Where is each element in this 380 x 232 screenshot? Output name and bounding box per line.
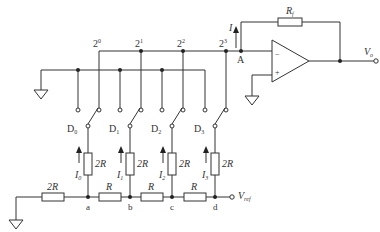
svg-text:2R: 2R xyxy=(222,158,233,169)
svg-text:R: R xyxy=(105,181,112,192)
svg-text:21: 21 xyxy=(135,38,143,49)
svg-text:−: − xyxy=(275,50,280,59)
svg-text:2R: 2R xyxy=(137,158,148,169)
svg-text:Vref: Vref xyxy=(238,190,252,202)
r2r-dac-diagram: I A 20 21 22 23 − + Rf Vo D0 xyxy=(0,0,380,232)
svg-text:a: a xyxy=(86,202,90,212)
switch-d0: D0 xyxy=(67,108,101,135)
vref-terminal xyxy=(230,195,234,199)
svg-text:R: R xyxy=(147,181,154,192)
svg-text:D3: D3 xyxy=(194,123,204,135)
ground-icon xyxy=(9,220,23,229)
opamp: − + Rf Vo xyxy=(241,5,378,105)
svg-text:+: + xyxy=(275,68,280,77)
switch-d1: D1 xyxy=(109,108,143,135)
node-A-label: A xyxy=(237,54,245,65)
svg-text:b: b xyxy=(128,202,133,212)
svg-text:20: 20 xyxy=(93,38,101,49)
svg-text:d: d xyxy=(213,202,218,212)
svg-text:2R: 2R xyxy=(47,181,58,192)
svg-text:Vo: Vo xyxy=(364,46,373,58)
summing-bus: I A xyxy=(99,22,272,108)
svg-text:c: c xyxy=(170,202,174,212)
switches: D0 D1 D2 D3 xyxy=(67,108,228,135)
current-I-label: I xyxy=(228,22,233,33)
ground-icon xyxy=(34,90,48,99)
svg-text:R: R xyxy=(190,181,197,192)
svg-text:Rf: Rf xyxy=(285,5,295,17)
weight-labels: 20 21 22 23 xyxy=(93,38,227,49)
svg-text:I2: I2 xyxy=(158,169,165,181)
ground-icon xyxy=(245,96,259,105)
svg-text:23: 23 xyxy=(219,38,227,49)
svg-text:D2: D2 xyxy=(151,123,161,135)
output-terminal xyxy=(374,59,378,63)
svg-text:22: 22 xyxy=(177,38,185,49)
svg-text:I0: I0 xyxy=(74,169,81,181)
svg-text:D1: D1 xyxy=(109,123,119,135)
feedback-resistor xyxy=(278,18,302,26)
switch-d2: D2 xyxy=(151,108,185,135)
ground-bus xyxy=(34,68,205,108)
svg-text:I1: I1 xyxy=(116,169,123,181)
svg-text:I3: I3 xyxy=(201,169,208,181)
svg-text:2R: 2R xyxy=(179,158,190,169)
switch-d3: D3 xyxy=(194,108,228,135)
svg-text:2R: 2R xyxy=(95,158,106,169)
svg-text:D0: D0 xyxy=(67,123,77,135)
